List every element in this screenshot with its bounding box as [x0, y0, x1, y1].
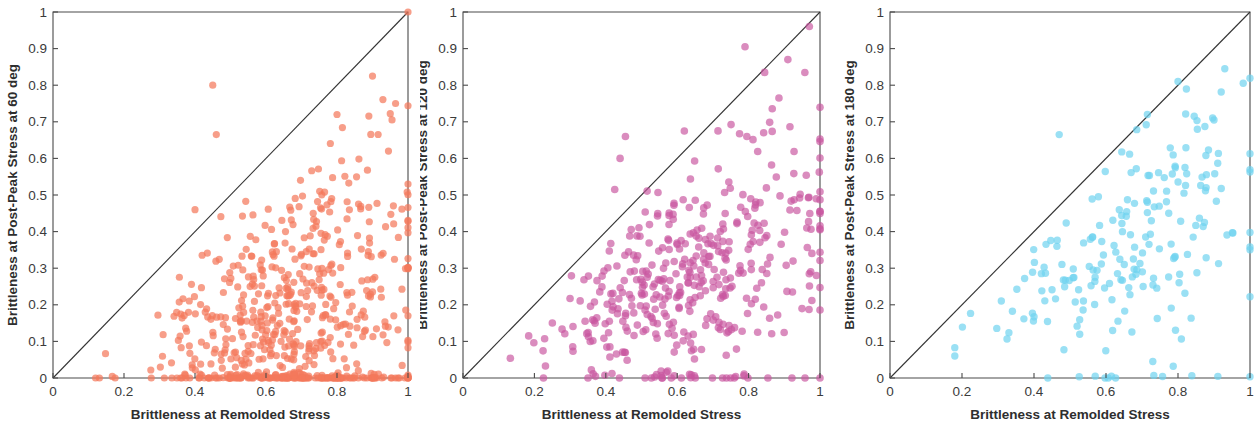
- scatter-point: [364, 167, 371, 174]
- scatter-point: [1144, 199, 1151, 206]
- scatter-point: [633, 232, 641, 240]
- scatter-point: [282, 228, 289, 235]
- scatter-point: [353, 316, 360, 323]
- scatter-point: [725, 178, 733, 186]
- scatter-point: [1176, 271, 1183, 278]
- scatter-point: [272, 292, 279, 299]
- y-tick-label: 0: [449, 371, 457, 386]
- scatter-point: [802, 171, 810, 179]
- scatter-point: [816, 257, 824, 265]
- scatter-point: [616, 374, 624, 382]
- y-tick-label: 0.9: [28, 41, 47, 56]
- scatter-point: [1148, 217, 1155, 224]
- y-tick-label: 0.8: [438, 78, 457, 93]
- scatter-point: [398, 286, 405, 293]
- scatter-point: [803, 224, 811, 232]
- scatter-point: [278, 217, 285, 224]
- scatter-point: [286, 203, 293, 210]
- scatter-point: [760, 129, 768, 137]
- scatter-point: [693, 226, 701, 234]
- scatter-point: [355, 156, 362, 163]
- scatter-point: [626, 291, 634, 299]
- scatter-point: [568, 272, 576, 280]
- scatter-point: [186, 342, 193, 349]
- scatter-point: [275, 310, 282, 317]
- scatter-point: [1108, 296, 1115, 303]
- scatter-point: [1121, 307, 1128, 314]
- scatter-point: [346, 374, 353, 381]
- scatter-point: [816, 284, 824, 292]
- scatter-point: [1156, 245, 1163, 252]
- scatter-point: [232, 364, 239, 371]
- scatter-point: [324, 339, 331, 346]
- scatter-point: [768, 105, 776, 113]
- panel-120-deg: 00.20.40.60.8100.10.20.30.40.50.60.70.80…: [420, 0, 840, 423]
- scatter-point: [394, 326, 401, 333]
- scatter-point: [258, 282, 265, 289]
- scatter-point: [173, 309, 180, 316]
- scatter-point: [816, 138, 824, 146]
- scatter-point: [1116, 206, 1123, 213]
- scatter-point: [608, 306, 616, 314]
- scatter-point: [628, 302, 636, 310]
- x-tick-label: 0.2: [953, 384, 972, 399]
- scatter-point: [633, 276, 641, 284]
- scatter-point: [213, 131, 220, 138]
- scatter-point: [301, 234, 308, 241]
- scatter-point: [1213, 198, 1220, 205]
- scatter-point: [1044, 374, 1051, 381]
- scatter-point: [277, 338, 284, 345]
- scatter-point: [731, 374, 739, 382]
- scatter-point: [1144, 111, 1151, 118]
- scatter-point: [1167, 240, 1174, 247]
- scatter-point: [265, 290, 272, 297]
- scatter-point: [774, 311, 782, 319]
- scatter-point: [1091, 273, 1098, 280]
- scatter-point: [710, 266, 718, 274]
- scatter-point: [719, 220, 727, 228]
- scatter-point: [297, 252, 304, 259]
- scatter-point: [1048, 286, 1055, 293]
- scatter-point: [1060, 346, 1067, 353]
- scatter-point: [748, 226, 756, 234]
- scatter-point: [318, 292, 325, 299]
- scatter-point: [316, 276, 323, 283]
- scatter-point: [801, 69, 809, 77]
- scatter-point: [1246, 229, 1253, 236]
- brittleness-scatter-figure: 00.20.40.60.8100.10.20.30.40.50.60.70.80…: [0, 0, 1258, 423]
- scatter-point: [721, 210, 729, 218]
- scatter-point: [725, 238, 733, 246]
- scatter-point: [741, 43, 749, 51]
- scatter-point: [733, 345, 741, 353]
- scatter-point: [592, 373, 600, 381]
- scatter-point: [1170, 363, 1177, 370]
- scatter-point: [288, 355, 295, 362]
- scatter-point: [395, 234, 402, 241]
- scatter-point: [344, 292, 351, 299]
- scatter-point: [345, 179, 352, 186]
- scatter-point: [788, 374, 796, 382]
- scatter-point: [1080, 297, 1087, 304]
- scatter-point: [249, 319, 256, 326]
- scatter-point: [1170, 255, 1177, 262]
- scatter-point: [606, 343, 614, 351]
- scatter-point: [213, 374, 220, 381]
- scatter-point: [1174, 78, 1181, 85]
- scatter-point: [299, 374, 306, 381]
- scatter-point: [1128, 328, 1135, 335]
- scatter-point: [291, 317, 298, 324]
- scatter-point: [746, 240, 754, 248]
- scatter-point: [327, 348, 334, 355]
- scatter-point: [596, 288, 604, 296]
- scatter-point: [196, 374, 203, 381]
- y-tick-label: 0.7: [438, 114, 457, 129]
- scatter-point: [1143, 121, 1150, 128]
- scatter-point: [609, 290, 617, 298]
- scatter-point: [652, 291, 660, 299]
- scatter-point: [341, 173, 348, 180]
- scatter-point: [1118, 148, 1125, 155]
- scatter-point: [260, 339, 267, 346]
- scatter-point: [951, 352, 958, 359]
- scatter-point: [709, 374, 717, 382]
- scatter-point: [267, 352, 274, 359]
